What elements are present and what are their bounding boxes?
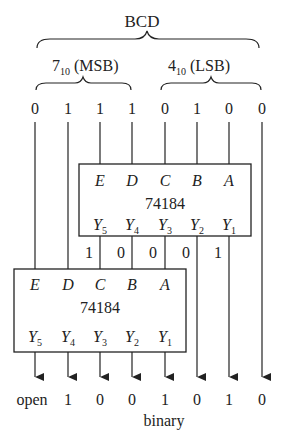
- svg-text:open: open: [16, 391, 47, 409]
- svg-text:0: 0: [258, 391, 266, 408]
- pin-d: D: [125, 172, 138, 189]
- chip-name: 74184: [145, 195, 185, 212]
- svg-text:0: 0: [128, 391, 136, 408]
- brace-lsb: [161, 77, 261, 90]
- svg-text:0: 0: [149, 244, 157, 261]
- svg-text:0: 0: [161, 100, 169, 117]
- svg-text:1: 1: [214, 244, 222, 261]
- svg-text:0: 0: [225, 100, 233, 117]
- pin-d: D: [61, 276, 74, 293]
- brace-msb: [36, 77, 131, 90]
- pin-a: A: [223, 172, 234, 189]
- pin-a: A: [159, 276, 170, 293]
- svg-text:1: 1: [193, 100, 201, 117]
- svg-text:1: 1: [225, 391, 233, 408]
- title-bcd: BCD: [125, 12, 160, 31]
- pin-b: B: [127, 276, 137, 293]
- intermediate-bits: 1 0 0 0 1: [85, 244, 222, 261]
- svg-text:0: 0: [193, 391, 201, 408]
- bcd-to-binary-diagram: BCD 710 (MSB) 410 (LSB) 0 1 1 1 0 1 0 0: [0, 0, 285, 439]
- pin-b: B: [192, 172, 202, 189]
- svg-text:0: 0: [117, 244, 125, 261]
- pin-e: E: [94, 172, 105, 189]
- svg-text:0: 0: [258, 100, 266, 117]
- svg-text:0: 0: [31, 100, 39, 117]
- output-bits: open 1 0 0 1 0 1 0: [16, 391, 266, 409]
- svg-text:1: 1: [96, 100, 104, 117]
- group-lsb-label: 410 (LSB): [168, 57, 230, 77]
- svg-text:1: 1: [161, 391, 169, 408]
- brace-bcd: [37, 31, 259, 48]
- diagram-canvas: BCD 710 (MSB) 410 (LSB) 0 1 1 1 0 1 0 0: [0, 0, 285, 439]
- pin-c: C: [160, 172, 171, 189]
- pin-c: C: [95, 276, 106, 293]
- svg-text:1: 1: [85, 244, 93, 261]
- svg-text:0: 0: [182, 244, 190, 261]
- chip-74184-lower: E D C B A 74184 Y5 Y4 Y3 Y2 Y1: [14, 269, 186, 352]
- svg-text:1: 1: [128, 100, 136, 117]
- svg-text:1: 1: [64, 100, 72, 117]
- input-bits: 0 1 1 1 0 1 0 0: [31, 100, 266, 117]
- group-msb-label: 710 (MSB): [52, 57, 118, 77]
- output-label-binary: binary: [144, 412, 185, 430]
- pin-e: E: [29, 276, 40, 293]
- chip-74184-upper: E D C B A 74184 Y5 Y4 Y3 Y2 Y1: [79, 164, 251, 236]
- chip-name: 74184: [80, 299, 120, 316]
- svg-text:0: 0: [96, 391, 104, 408]
- svg-text:1: 1: [64, 391, 72, 408]
